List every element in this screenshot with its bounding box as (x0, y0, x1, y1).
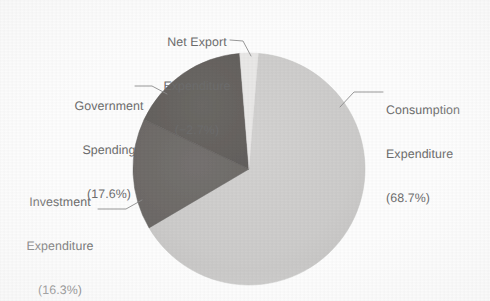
slice-label-investment-line1: Investment (2, 195, 118, 210)
slice-label-consumption-value: (68.7%) (386, 191, 490, 206)
slice-label-investment: Investment Expenditure (16.3%) (2, 166, 118, 301)
leader-line-consumption (340, 92, 383, 107)
slice-label-government-line1: Government (56, 99, 162, 114)
slice-label-investment-line2: Expenditure (2, 239, 118, 254)
slice-label-consumption: Consumption Expenditure (68.7%) (386, 74, 490, 235)
slice-label-consumption-line2: Expenditure (386, 147, 490, 162)
pie-chart-figure: Net Export Expenditure (−2.7%) Governmen… (0, 0, 490, 301)
slice-label-investment-value: (16.3%) (2, 283, 118, 298)
slice-label-consumption-line1: Consumption (386, 103, 490, 118)
slice-label-net-export-line1: Net Export (142, 35, 252, 50)
slice-label-government-line2: Spending (56, 143, 162, 158)
